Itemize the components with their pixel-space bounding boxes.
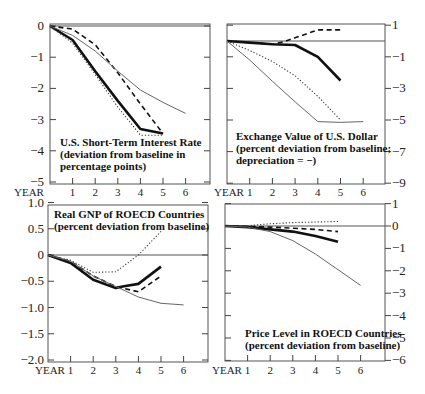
y-tick-label: −7 [392,144,406,159]
chart-subtitle: (percent deviation from baseline) [54,220,209,233]
x-tick-label: 5 [160,186,166,198]
chart-title: U.S. Short-Term Interest Rate [60,136,202,148]
x-tick-label: 3 [115,186,121,198]
series-dashed [227,30,341,44]
series-dotted [225,222,338,227]
x-tick-label: 2 [267,364,273,376]
interest-rate-panel: 0−1−2−3−4−5123456YEARU.S. Short-Term Int… [14,18,210,198]
x-tick-label: 3 [292,186,298,198]
y-tick-label: 1.0 [28,195,44,210]
x-tick-label: 1 [70,186,76,198]
y-tick-label: −1.0 [20,300,44,315]
x-axis-label: YEAR [35,364,66,376]
x-axis-label: YEAR [214,186,245,198]
y-tick-label: −2 [30,80,44,95]
y-tick-label: −6 [392,352,406,367]
y-tick-label: −3 [392,285,406,300]
y-tick-label: −9 [392,175,406,190]
series-dashed [48,255,161,292]
x-tick-label: 4 [138,186,144,198]
x-tick-label: 5 [335,364,341,376]
x-tick-label: 4 [315,186,321,198]
chart-grid: 0−1−2−3−4−5123456YEARU.S. Short-Term Int… [0,0,425,394]
series-thick-solid [50,26,163,134]
x-tick-label: 1 [68,364,74,376]
y-tick-label: −3 [30,112,44,127]
x-tick-label: 5 [158,364,164,376]
y-tick-label: 0 [38,18,45,33]
y-tick-label: 1 [392,17,399,32]
y-tick-label: −3 [392,80,406,95]
series-thin-solid [227,41,363,122]
series-thin-solid [225,226,361,285]
x-tick-label: 3 [290,364,296,376]
y-tick-label: −1 [392,240,406,255]
x-tick-label: 6 [183,186,189,198]
real-gnp-panel: 1.00.50−0.5−1.0−1.5−2.0123456YEARReal GN… [20,195,209,377]
x-tick-label: 4 [136,364,142,376]
y-tick-label: 0.5 [28,221,44,236]
x-tick-label: 1 [245,364,251,376]
y-tick-label: −5 [392,112,406,127]
exchange-value-panel: 1−1−3−5−7−9123456YEARExchange Value of U… [214,17,406,198]
chart-subtitle: depreciation = −) [236,154,316,167]
series-thick-solid [225,226,338,242]
series-dashed [50,26,163,134]
x-tick-label: 4 [313,364,319,376]
y-tick-label: −1 [30,49,44,64]
chart-title: Real GNP of ROECD Countries [54,208,205,220]
x-tick-label: 6 [360,186,366,198]
x-tick-label: 5 [338,186,344,198]
x-tick-label: 6 [358,364,364,376]
y-tick-label: −2 [392,263,406,278]
series-dotted [48,231,161,272]
x-tick-label: 2 [90,364,96,376]
y-tick-label: −1 [392,49,406,64]
y-tick-label: 0 [38,247,45,262]
y-tick-label: −4 [392,308,406,323]
price-level-panel: 10−1−2−3−4−5−6123456YEARPrice Level in R… [212,196,406,376]
x-tick-label: 2 [270,186,276,198]
y-tick-label: 0 [392,218,399,233]
chart-title: Exchange Value of U.S. Dollar [236,130,378,142]
chart-subtitle: (percent deviation from baseline) [245,339,400,352]
y-tick-label: 1 [392,196,399,211]
series-thick-solid [227,41,341,81]
series-dotted [227,41,341,120]
series-dotted [50,26,163,135]
y-tick-label: −1.5 [20,326,44,341]
x-tick-label: 6 [181,364,187,376]
x-tick-label: 2 [92,186,98,198]
y-tick-label: −4 [30,143,44,158]
x-tick-label: 3 [113,364,119,376]
chart-title: Price Level in ROECD Countries [245,327,402,339]
chart-subtitle: percentage points) [60,160,147,173]
x-axis-label: YEAR [212,364,243,376]
y-tick-label: −0.5 [20,273,44,288]
x-tick-label: 1 [247,186,253,198]
